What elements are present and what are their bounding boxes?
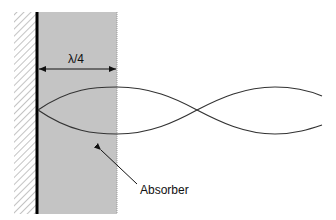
distance-label: λ/4	[68, 52, 84, 66]
absorber-region	[38, 12, 117, 214]
absorber-label: Absorber	[140, 183, 189, 197]
wall-hatch	[14, 12, 36, 214]
